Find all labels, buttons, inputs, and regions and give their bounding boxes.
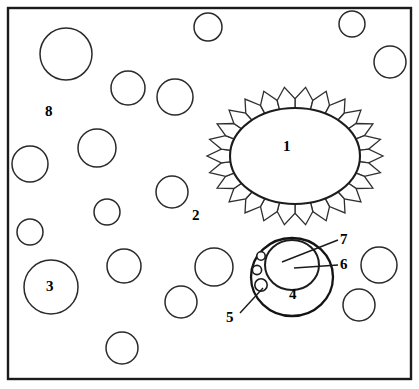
vacuole-5: [339, 11, 365, 37]
petal-1: [295, 87, 313, 110]
figure-root: 12345678: [0, 0, 419, 389]
vacuole-3: [157, 79, 193, 115]
callout-label-4: 4: [289, 287, 297, 302]
petal-13: [295, 202, 313, 225]
vacuole-7: [78, 129, 116, 167]
vacuole-14: [195, 248, 233, 286]
petal-14: [277, 202, 295, 225]
vacuole-15: [165, 286, 197, 318]
callout-label-8: 8: [45, 104, 53, 119]
vacuole-1: [40, 28, 92, 80]
petal-26: [277, 87, 295, 110]
vacuole-10: [94, 199, 120, 225]
cell-diagram-canvas: [0, 0, 419, 389]
vacuole-16: [106, 332, 138, 364]
granule-2: [252, 265, 261, 274]
petal-7: [359, 149, 384, 163]
petal-20: [207, 149, 232, 163]
callout-label-7: 7: [340, 232, 348, 247]
vacuole-2: [111, 71, 145, 105]
callout-label-5: 5: [226, 310, 234, 325]
callout-label-1: 1: [283, 139, 291, 154]
vacuole-4: [194, 13, 222, 41]
cell-nucleus: [265, 240, 319, 290]
callout-label-2: 2: [192, 208, 200, 223]
vacuole-8: [12, 146, 48, 182]
central-nucleus: [230, 108, 360, 204]
vacuole-17: [361, 247, 397, 283]
vacuole-6: [374, 46, 406, 78]
vacuole-18: [343, 289, 375, 321]
vacuole-13: [107, 249, 141, 283]
vacuole-11: [17, 219, 43, 245]
vacuole-9: [156, 176, 188, 208]
callout-label-6: 6: [340, 257, 348, 272]
granule-1: [257, 252, 265, 260]
callout-label-3: 3: [46, 279, 54, 294]
